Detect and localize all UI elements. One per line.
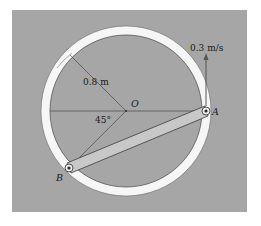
pin-a [202,107,210,115]
label-point-a: A [211,106,219,117]
label-center-o: O [131,98,139,109]
label-angle: 45° [95,115,111,125]
label-radius: 0.8 m [83,77,109,87]
ring-rod-diagram: 0.3 m/s 0.8 m O 45° A B [0,0,261,226]
label-velocity: 0.3 m/s [190,43,224,53]
label-point-b: B [55,172,63,183]
center-point [125,110,127,112]
pin-b [65,164,73,172]
